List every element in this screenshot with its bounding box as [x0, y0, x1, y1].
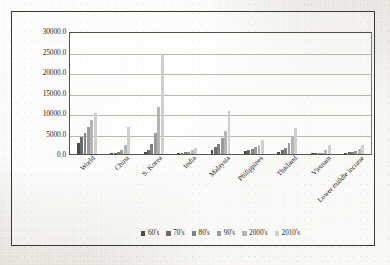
bar [228, 111, 231, 154]
legend-label: 80's [199, 230, 210, 237]
y-tick-label: 25000.0 [14, 49, 66, 56]
bar-group [304, 33, 337, 154]
x-axis-label: Philippines [237, 155, 265, 183]
bar-group [271, 33, 304, 154]
bar-group [237, 33, 270, 154]
bar [294, 128, 297, 154]
chart-frame: 30000.025000.020000.015000.010000.05000.… [11, 11, 375, 246]
bar-group [338, 33, 371, 154]
y-tick-label: 0.0 [14, 151, 66, 158]
legend-label: 2010's [282, 230, 300, 237]
bar [194, 148, 197, 154]
legend-swatch [275, 231, 280, 236]
x-axis-label: China [113, 155, 130, 172]
chart-legend: 60's70's80's90's2000's2010's [69, 230, 372, 237]
y-tick-label: 15000.0 [14, 90, 66, 97]
bar [127, 127, 130, 154]
legend-item: 90's [217, 230, 235, 237]
bar [328, 145, 331, 154]
legend-swatch [217, 231, 222, 236]
legend-swatch [141, 231, 146, 236]
bar-group [137, 33, 170, 154]
plot-area [69, 32, 372, 155]
legend-label: 90's [224, 230, 235, 237]
x-axis-label: Thailand [276, 155, 299, 178]
bar-groups [70, 33, 371, 154]
legend-item: 2010's [275, 230, 300, 237]
y-tick-label: 20000.0 [14, 69, 66, 76]
legend-swatch [242, 231, 247, 236]
y-axis: 30000.025000.020000.015000.010000.05000.… [12, 32, 66, 155]
legend-item: 80's [192, 230, 210, 237]
x-axis-label: World [79, 155, 97, 173]
bar [261, 140, 264, 154]
bar [161, 54, 164, 154]
legend-item: 60's [141, 230, 159, 237]
bar-group [70, 33, 103, 154]
legend-swatch [192, 231, 197, 236]
legend-label: 2000's [249, 230, 267, 237]
bar [361, 145, 364, 154]
y-tick-label: 30000.0 [14, 28, 66, 35]
bar [94, 113, 97, 154]
bar-group [204, 33, 237, 154]
x-axis-label: Malaysia [208, 155, 232, 179]
x-axis-label: India [182, 155, 198, 171]
legend-item: 70's [166, 230, 184, 237]
bar-group [170, 33, 203, 154]
legend-swatch [166, 231, 171, 236]
x-axis-label: S. Korea [141, 155, 164, 178]
y-tick-label: 10000.0 [14, 110, 66, 117]
y-tick-label: 5000.0 [14, 131, 66, 138]
legend-label: 70's [173, 230, 184, 237]
x-axis-label: Vietnam [310, 155, 332, 177]
legend-label: 60's [148, 230, 159, 237]
legend-item: 2000's [242, 230, 267, 237]
bar-group [103, 33, 136, 154]
